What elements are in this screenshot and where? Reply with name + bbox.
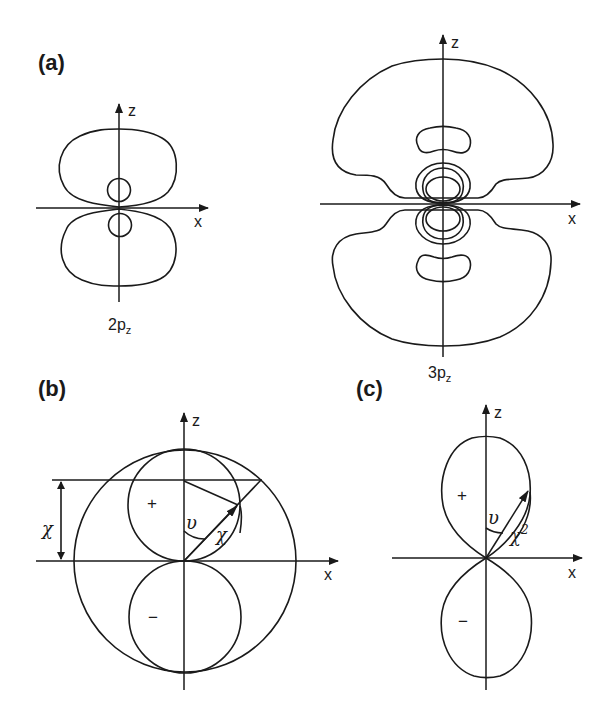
x-axis-label: x bbox=[568, 210, 576, 227]
z-axis-label: z bbox=[192, 412, 200, 429]
angle-label-upsilon: υ bbox=[488, 507, 499, 528]
radius-label-chi: χ bbox=[214, 524, 228, 545]
panel-b: (b) z x χ υ χ + − bbox=[36, 376, 338, 690]
radius-label-chi-squared: χ2 bbox=[508, 523, 529, 546]
orbital-figure: (a) z x 2pz z x bbox=[0, 0, 611, 717]
orbital-label-3pz: 3pz bbox=[428, 364, 451, 384]
z-axis-label: z bbox=[494, 404, 502, 421]
chord-line bbox=[184, 481, 238, 505]
orbital-3pz-plot: z x 3pz bbox=[320, 34, 580, 384]
panel-a: (a) z x 2pz z x bbox=[36, 34, 580, 384]
negative-lobe-circle bbox=[129, 561, 241, 673]
positive-sign: + bbox=[147, 494, 157, 513]
x-axis-label: x bbox=[568, 564, 576, 581]
upper-lobe-contour bbox=[59, 129, 176, 207]
z-axis-label: z bbox=[451, 34, 459, 51]
z-axis-label: z bbox=[128, 102, 136, 119]
lower-inner-contour bbox=[109, 214, 132, 237]
panel-label-a: (a) bbox=[38, 50, 65, 75]
angle-label-upsilon: υ bbox=[186, 512, 197, 533]
x-axis-label: x bbox=[324, 566, 332, 583]
orbital-2pz-plot: z x 2pz bbox=[36, 102, 208, 336]
panel-label-b: (b) bbox=[38, 376, 66, 401]
x-axis-label: x bbox=[194, 213, 202, 230]
panel-c: (c) z x υ χ2 + − bbox=[356, 376, 582, 690]
height-label-chi: χ bbox=[40, 518, 54, 539]
negative-sign: − bbox=[458, 612, 468, 631]
angle-arc bbox=[486, 528, 503, 533]
positive-sign: + bbox=[457, 486, 467, 505]
orbital-label-2pz: 2pz bbox=[108, 316, 131, 336]
chi-arc bbox=[240, 506, 242, 533]
negative-sign: − bbox=[148, 608, 158, 627]
panel-label-c: (c) bbox=[356, 376, 383, 401]
